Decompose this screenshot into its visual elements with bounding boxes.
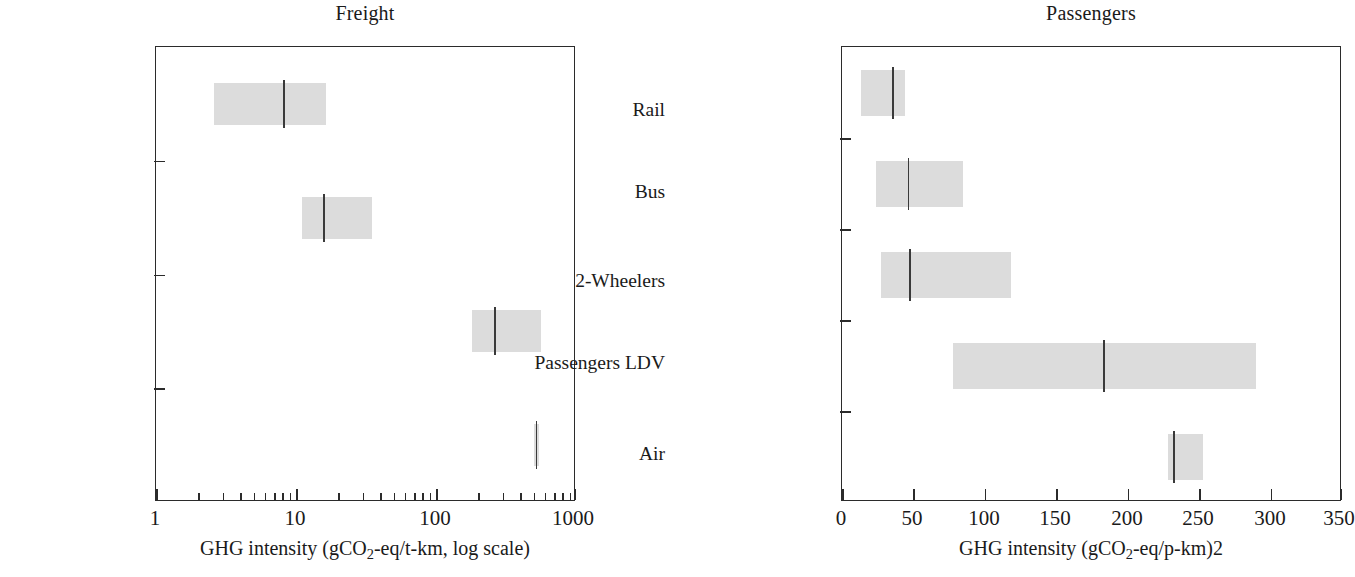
xtick-minor-50 <box>394 493 396 500</box>
xticklabel-p-350: 350 <box>1323 506 1355 531</box>
ylabel-bus: Bus <box>325 182 665 202</box>
xticklabel-p-250: 250 <box>1182 506 1214 531</box>
median-line-air-passengers <box>1173 431 1175 483</box>
xtick-p-200 <box>1128 489 1130 500</box>
panel-title-passengers: Passengers <box>841 2 1341 25</box>
xtick-p-0 <box>842 489 844 500</box>
xaxis-title-freight: GHG intensity (gCO2-eq/t-km, log scale) <box>100 537 630 563</box>
xtick-p-150 <box>1056 489 1058 500</box>
xaxis-title-passengers-suffix: -eq/p-km)2 <box>1133 537 1223 559</box>
xaxis-title-passengers: GHG intensity (gCO2-eq/p-km)2 <box>791 537 1355 563</box>
ylabel-2-wheelers: 2-Wheelers <box>325 271 665 291</box>
xtick-p-100 <box>985 489 987 500</box>
xaxis-title-passengers-prefix: GHG intensity (gCO <box>959 537 1126 559</box>
xtick-minor-70 <box>414 493 416 500</box>
median-line-road-freight <box>494 307 496 355</box>
xtick-minor-3 <box>223 493 225 500</box>
xticklabel-freight-100: 100 <box>419 506 451 531</box>
xtick-minor-5 <box>254 493 256 500</box>
xtick-minor-2 <box>198 493 200 500</box>
xtick-minor-30 <box>363 493 365 500</box>
xtick-minor-200 <box>478 493 480 500</box>
panel-passengers: Passengers Rail Bus 2-Wheelers Passenger… <box>680 0 1355 577</box>
xticklabel-freight-10: 10 <box>285 506 306 531</box>
xtick-p-350 <box>1340 489 1342 500</box>
ylabel-air-passengers: Air <box>325 444 665 464</box>
xtick-major-10 <box>296 489 298 500</box>
median-line-rail <box>892 67 894 119</box>
plot-area-passengers <box>841 46 1341 501</box>
xtick-minor-9 <box>290 493 292 500</box>
range-bar-freight-rail <box>302 197 372 239</box>
xticklabel-freight-1: 1 <box>150 506 161 531</box>
xtick-minor-800 <box>562 493 564 500</box>
bar-row-2-wheelers <box>842 229 1340 320</box>
xtick-minor-400 <box>520 493 522 500</box>
xtick-minor-8 <box>282 493 284 500</box>
range-bar-bus <box>876 161 963 207</box>
xtick-minor-300 <box>503 493 505 500</box>
median-line-bus <box>908 158 910 210</box>
range-bar-road-freight <box>472 310 541 352</box>
xtick-major-1000 <box>574 489 576 500</box>
xtick-minor-7 <box>274 493 276 500</box>
panel-title-freight: Freight <box>155 2 575 25</box>
bar-row-bus <box>842 138 1340 229</box>
xticklabel-freight-1000: 1000 <box>552 506 594 531</box>
ylabel-passengers-ldv: Passengers LDV <box>325 353 665 373</box>
xtick-minor-700 <box>554 493 556 500</box>
xtick-minor-500 <box>534 493 536 500</box>
xticklabel-p-150: 150 <box>1039 506 1071 531</box>
xtick-minor-40 <box>380 493 382 500</box>
xtick-p-250 <box>1199 489 1201 500</box>
xaxis-title-freight-subscript: 2 <box>367 546 374 562</box>
xtick-minor-900 <box>570 493 572 500</box>
range-bar-shipping <box>214 83 326 125</box>
xaxis-title-passengers-subscript: 2 <box>1126 546 1133 562</box>
median-line-2-wheelers <box>909 249 911 301</box>
xtick-minor-20 <box>338 493 340 500</box>
bar-row-rail <box>842 47 1340 138</box>
bar-row-passengers-ldv <box>842 320 1340 411</box>
xticklabel-p-100: 100 <box>968 506 1000 531</box>
xtick-minor-80 <box>422 493 424 500</box>
range-bar-2-wheelers <box>881 252 1011 298</box>
xtick-minor-600 <box>545 493 547 500</box>
median-line-shipping <box>283 80 285 128</box>
xticklabel-p-0: 0 <box>836 506 847 531</box>
xtick-minor-60 <box>405 493 407 500</box>
xtick-major-1 <box>156 489 158 500</box>
xtick-minor-6 <box>265 493 267 500</box>
xaxis-title-freight-suffix: -eq/t-km, log scale) <box>374 537 530 559</box>
xticklabel-p-50: 50 <box>902 506 923 531</box>
figure-two-panel-ghg-intensity: Freight Shipping Freight rail Road freig… <box>0 0 1355 577</box>
xticklabel-p-200: 200 <box>1111 506 1143 531</box>
xtick-minor-90 <box>430 493 432 500</box>
xtick-p-50 <box>913 489 915 500</box>
xtick-p-300 <box>1271 489 1273 500</box>
bar-row-air-passengers <box>842 411 1340 502</box>
xticklabel-p-300: 300 <box>1254 506 1286 531</box>
bar-row-freight-rail <box>156 161 574 275</box>
range-bar-rail <box>861 70 905 116</box>
median-line-passengers-ldv <box>1103 340 1105 392</box>
xaxis-title-freight-prefix: GHG intensity (gCO <box>200 537 367 559</box>
xtick-minor-4 <box>240 493 242 500</box>
xtick-major-100 <box>436 489 438 500</box>
ylabel-rail: Rail <box>325 100 665 120</box>
